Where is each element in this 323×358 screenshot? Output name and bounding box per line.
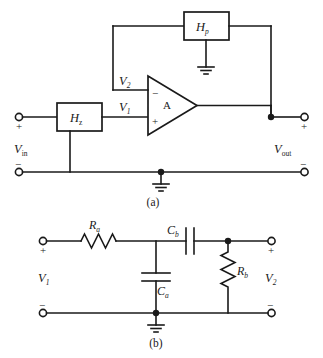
resistor-rb-label: Rb — [236, 264, 248, 280]
v2-label: V2 — [119, 74, 131, 90]
v1-plus-sign: + — [40, 244, 46, 256]
vout-minus-sign: − — [300, 158, 306, 170]
panel-b: + − V1 Ra Ca Cb Rb + — [38, 218, 277, 350]
capacitor-cb-label: Cb — [167, 223, 179, 239]
resistor-ra-label: Ra — [88, 218, 100, 234]
ground-symbol-rail — [153, 184, 169, 191]
opamp-noninverting-sign: + — [152, 115, 158, 127]
caption-a: (a) — [147, 196, 160, 209]
ground-symbol-b — [148, 325, 164, 332]
resistor-ra[interactable] — [81, 234, 116, 248]
v2-minus-sign: − — [267, 299, 273, 311]
panel-a: + − Vin Hz V1 V2 A − + Hp — [14, 12, 308, 209]
v2-plus-sign: + — [268, 244, 274, 256]
circuit-figure: + − Vin Hz V1 V2 A − + Hp — [0, 0, 323, 358]
vin-label: Vin — [14, 142, 28, 158]
v1-label: V1 — [119, 100, 130, 116]
resistor-rb[interactable] — [221, 241, 235, 313]
v1-minus-sign: − — [39, 299, 45, 311]
opamp-inverting-sign: − — [152, 87, 158, 99]
vin-plus-sign: + — [16, 120, 22, 132]
vout-plus-sign: + — [301, 120, 307, 132]
opamp-gain-label: A — [163, 99, 171, 111]
v2-port-label: V2 — [265, 271, 277, 287]
vout-label: Vout — [274, 142, 292, 158]
capacitor-ca-label: Ca — [157, 284, 169, 300]
caption-b: (b) — [149, 337, 163, 350]
vin-minus-sign: − — [15, 158, 21, 170]
v1-port-label: V1 — [38, 271, 49, 287]
ground-symbol-hp — [198, 67, 214, 74]
circuit-svg: + − Vin Hz V1 V2 A − + Hp — [0, 0, 323, 358]
